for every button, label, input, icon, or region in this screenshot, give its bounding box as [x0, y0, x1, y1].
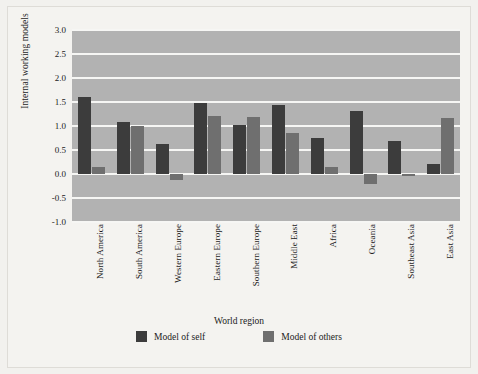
bar-model-of-self — [311, 138, 324, 174]
y-tick-label: 3.0 — [22, 25, 66, 35]
legend-label: Model of self — [154, 332, 205, 342]
bar-model-of-others — [402, 174, 415, 176]
y-tick-label: 0.5 — [22, 145, 66, 155]
bar-model-of-self — [272, 105, 285, 174]
gridline — [72, 197, 460, 199]
gridline — [72, 221, 460, 223]
x-tick-label: South America — [134, 224, 144, 279]
x-tick-label: Eastern Europe — [212, 224, 222, 281]
bar-model-of-others — [441, 118, 454, 174]
y-tick-label: -0.5 — [22, 193, 66, 203]
x-tick-label: North America — [95, 224, 105, 279]
bar-model-of-self — [233, 125, 246, 174]
x-tick-label: East Asia — [445, 224, 455, 259]
gridline — [72, 77, 460, 79]
x-tick-label: Southern Europe — [251, 224, 261, 286]
bar-model-of-others — [170, 174, 183, 180]
legend-swatch-icon — [263, 331, 274, 342]
x-axis-title: World region — [0, 316, 478, 326]
x-tick-label: Africa — [328, 224, 338, 248]
plot-area — [72, 30, 460, 222]
chart-legend: Model of selfModel of others — [0, 331, 478, 342]
bar-model-of-others — [131, 126, 144, 174]
y-tick-label: 2.5 — [22, 49, 66, 59]
bar-model-of-self — [117, 122, 130, 174]
gridline — [72, 53, 460, 55]
bar-model-of-others — [364, 174, 377, 184]
bar-model-of-self — [156, 144, 169, 174]
x-tick-label: Western Europe — [173, 224, 183, 283]
x-axis-tick-labels: North AmericaSouth AmericaWestern Europe… — [72, 224, 460, 316]
bar-model-of-others — [325, 167, 338, 174]
bar-model-of-self — [350, 111, 363, 174]
legend-swatch-icon — [136, 331, 147, 342]
x-tick-label: Oceania — [367, 224, 377, 254]
x-tick-label: Middle East — [289, 224, 299, 269]
figure-page: Internal working models 3.02.52.01.51.00… — [0, 0, 478, 374]
bar-chart-figure: Internal working models 3.02.52.01.51.00… — [0, 0, 478, 374]
y-tick-label: 2.0 — [22, 73, 66, 83]
bar-model-of-others — [247, 117, 260, 174]
gridline — [72, 29, 460, 31]
legend-item: Model of self — [136, 331, 205, 342]
gridline — [72, 101, 460, 103]
legend-label: Model of others — [281, 332, 342, 342]
y-tick-label: 1.5 — [22, 97, 66, 107]
x-tick-label: Southeast Asia — [406, 224, 416, 279]
bar-model-of-self — [427, 164, 440, 174]
bar-model-of-self — [78, 97, 91, 174]
y-tick-label: 1.0 — [22, 121, 66, 131]
y-tick-label: -1.0 — [22, 217, 66, 227]
bar-model-of-others — [286, 133, 299, 174]
legend-item: Model of others — [263, 331, 342, 342]
bar-model-of-self — [388, 141, 401, 174]
bar-model-of-others — [92, 167, 105, 174]
y-tick-label: 0.0 — [22, 169, 66, 179]
bar-model-of-others — [208, 116, 221, 174]
bar-model-of-self — [194, 103, 207, 174]
